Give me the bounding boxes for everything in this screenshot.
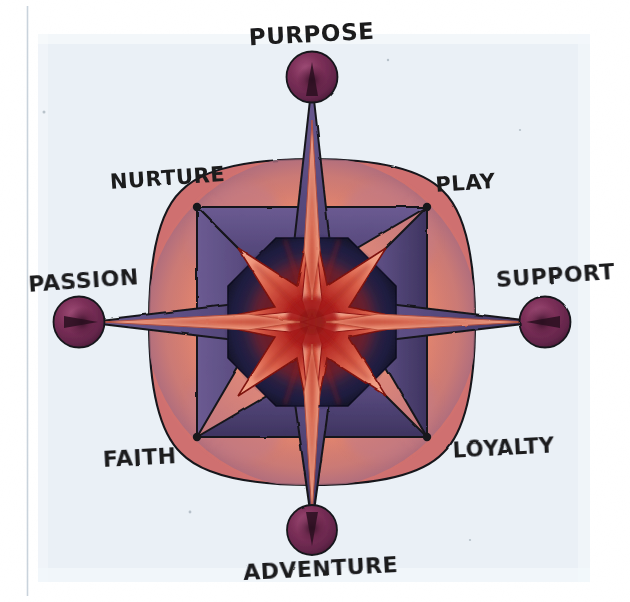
tip-dot-play[interactable] bbox=[423, 203, 431, 211]
node-adventure[interactable] bbox=[287, 505, 337, 555]
node-support[interactable] bbox=[520, 297, 571, 348]
node-passion[interactable] bbox=[54, 297, 105, 348]
tip-dot-loyalty[interactable] bbox=[423, 433, 431, 441]
node-purpose[interactable] bbox=[287, 52, 338, 103]
compass-rose-svg: PURPOSE PLAY SUPPORT LOYALTY ADVENTURE F… bbox=[0, 0, 630, 602]
label-faith: FAITH bbox=[102, 443, 177, 472]
compass-rose-artwork: PURPOSE PLAY SUPPORT LOYALTY ADVENTURE F… bbox=[0, 0, 630, 602]
label-play: PLAY bbox=[435, 169, 497, 197]
tip-dot-nurture[interactable] bbox=[193, 203, 201, 211]
tip-dot-faith[interactable] bbox=[193, 433, 201, 441]
